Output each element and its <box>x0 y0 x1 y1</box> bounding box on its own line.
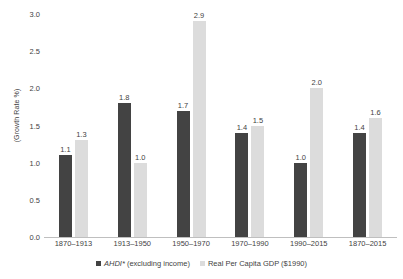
bar[interactable] <box>75 140 88 237</box>
legend-label: Real Per Capita GDP ($1990) <box>208 259 307 268</box>
bar-column[interactable]: 1.7 <box>177 111 190 237</box>
bar[interactable] <box>193 21 206 237</box>
y-axis-tick-label: 3.0 <box>18 10 40 19</box>
legend-entry[interactable]: AHDI* (excluding income) <box>96 259 190 268</box>
bar-chart: (Growth Rate %) 3.02.52.01.51.00.50.0 1.… <box>0 0 403 279</box>
bar-column[interactable]: 1.5 <box>251 126 264 238</box>
legend-entry[interactable]: Real Per Capita GDP ($1990) <box>200 259 307 268</box>
bar-column[interactable]: 2.0 <box>310 88 323 237</box>
bar-value-label: 2.9 <box>194 11 204 20</box>
bar[interactable] <box>369 118 382 237</box>
x-axis-tick-label: 1870–2015 <box>349 239 387 248</box>
bar-value-label: 1.0 <box>135 153 145 162</box>
y-axis-tick-label: 0.5 <box>18 195 40 204</box>
legend-swatch-icon <box>200 261 205 266</box>
bar-group: 1.81.0 <box>103 14 162 237</box>
legend-swatch-icon <box>96 261 101 266</box>
bar-value-label: 1.8 <box>119 93 129 102</box>
x-axis-tick-labels: 1870–19131913–19501950–19701970–19901990… <box>44 239 397 253</box>
bar-group: 1.41.6 <box>338 14 397 237</box>
bar-value-label: 1.4 <box>354 123 364 132</box>
bar[interactable] <box>294 163 307 237</box>
bar-value-label: 2.0 <box>312 78 322 87</box>
bar-column[interactable]: 1.0 <box>134 163 147 237</box>
y-axis-tick-label: 2.0 <box>18 84 40 93</box>
y-axis-tick-label: 1.5 <box>18 121 40 130</box>
bar[interactable] <box>59 155 72 237</box>
bar-column[interactable]: 1.6 <box>369 118 382 237</box>
x-axis-tick-label: 1950–1970 <box>172 239 210 248</box>
bar-group: 1.11.3 <box>44 14 103 237</box>
x-axis-tick-label: 1913–1950 <box>113 239 151 248</box>
bar-column[interactable]: 1.0 <box>294 163 307 237</box>
bar[interactable] <box>251 126 264 238</box>
bar-group: 1.72.9 <box>162 14 221 237</box>
bar[interactable] <box>134 163 147 237</box>
y-axis-tick-label: 0.0 <box>18 233 40 242</box>
y-axis-tick-labels: 3.02.52.01.51.00.50.0 <box>18 0 40 279</box>
bar-column[interactable]: 1.4 <box>235 133 248 237</box>
x-axis-tick-label: 1970–1990 <box>231 239 269 248</box>
bar-group: 1.02.0 <box>279 14 338 237</box>
x-axis-tick-label: 1870–1913 <box>55 239 93 248</box>
bar[interactable] <box>310 88 323 237</box>
bar[interactable] <box>118 103 131 237</box>
bar-value-label: 1.6 <box>370 108 380 117</box>
bar-column[interactable]: 1.4 <box>353 133 366 237</box>
bar-column[interactable]: 2.9 <box>193 21 206 237</box>
chart-legend: AHDI* (excluding income)Real Per Capita … <box>0 259 403 268</box>
bar[interactable] <box>177 111 190 237</box>
plot-area: 1.11.31.81.01.72.91.41.51.02.01.41.6 <box>44 14 397 237</box>
y-axis-tick-label: 1.0 <box>18 158 40 167</box>
legend-label: AHDI* (excluding income) <box>104 259 190 268</box>
x-axis-line <box>44 237 397 238</box>
y-axis-tick-label: 2.5 <box>18 47 40 56</box>
bar-value-label: 1.5 <box>253 116 263 125</box>
bar-value-label: 1.0 <box>296 153 306 162</box>
bar-group: 1.41.5 <box>221 14 280 237</box>
bar-value-label: 1.4 <box>237 123 247 132</box>
bar[interactable] <box>353 133 366 237</box>
bar[interactable] <box>235 133 248 237</box>
bar-column[interactable]: 1.8 <box>118 103 131 237</box>
bar-column[interactable]: 1.3 <box>75 140 88 237</box>
bar-value-label: 1.7 <box>178 101 188 110</box>
bar-column[interactable]: 1.1 <box>59 155 72 237</box>
x-axis-tick-label: 1990–2015 <box>290 239 328 248</box>
bar-value-label: 1.1 <box>60 145 70 154</box>
bar-value-label: 1.3 <box>76 130 86 139</box>
